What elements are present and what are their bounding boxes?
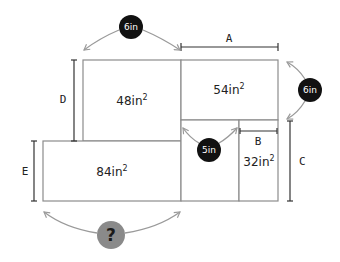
label-c: C bbox=[299, 155, 306, 168]
svg-text:6in: 6in bbox=[124, 22, 138, 32]
arc-top-right bbox=[143, 30, 180, 50]
label-d: D bbox=[60, 93, 67, 106]
label-e: E bbox=[22, 165, 29, 178]
arc-right-top bbox=[287, 62, 305, 79]
diagram-svg: A B C D E 48in2 54in2 84in2 32in2 bbox=[0, 0, 340, 262]
arc-bottom-left bbox=[44, 212, 97, 233]
badge-right-6in: 6in bbox=[298, 78, 322, 102]
arc-top-left bbox=[84, 30, 119, 50]
arc-bottom-right bbox=[125, 212, 180, 233]
label-a: A bbox=[226, 32, 233, 45]
badge-middle-5in: 5in bbox=[197, 138, 221, 162]
dimension-c: C bbox=[287, 121, 306, 201]
area-diagram: A B C D E 48in2 54in2 84in2 32in2 bbox=[0, 0, 340, 262]
badge-unknown-question: ? bbox=[97, 221, 125, 249]
question-mark-icon: ? bbox=[106, 225, 116, 245]
badge-top-6in: 6in bbox=[119, 15, 143, 39]
label-b: B bbox=[255, 135, 262, 148]
dimension-d: D bbox=[60, 60, 77, 141]
svg-text:6in: 6in bbox=[303, 85, 317, 95]
dimension-a: A bbox=[181, 32, 278, 51]
arc-right-bottom bbox=[287, 101, 305, 119]
svg-text:5in: 5in bbox=[202, 145, 216, 155]
dimension-e: E bbox=[22, 141, 37, 201]
